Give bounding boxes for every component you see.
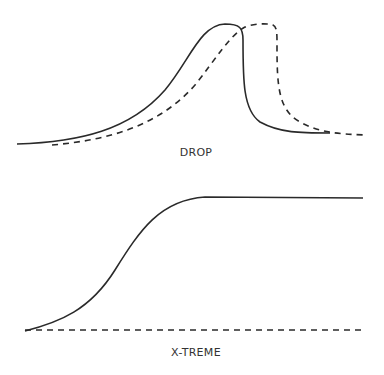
diagram-canvas [0, 0, 384, 375]
xtreme-solid-curve [25, 197, 363, 331]
drop-label: DROP [180, 146, 213, 159]
drop-solid-curve [17, 24, 330, 144]
xtreme-label: X-TREME [171, 346, 221, 359]
drop-dashed-curve [52, 24, 365, 145]
